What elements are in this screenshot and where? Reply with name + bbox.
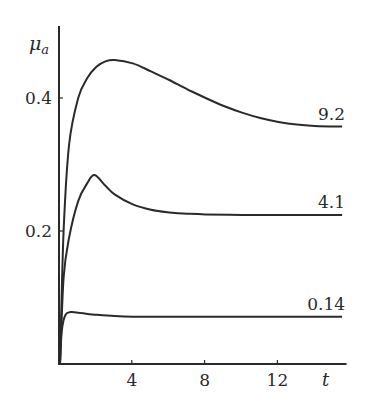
y-tick-label: 0.2 (25, 221, 52, 241)
x-tick-label: 12 (267, 370, 289, 390)
labels: 48120.20.4μat9.24.10.14 (25, 32, 345, 390)
x-tick-label: 8 (199, 370, 210, 390)
y-tick-label: 0.4 (25, 88, 52, 108)
x-axis-label: t (322, 369, 330, 390)
x-tick-label: 4 (126, 370, 137, 390)
curve-0-14 (60, 312, 342, 364)
curve-label: 9.2 (318, 104, 345, 124)
curve-label: 4.1 (318, 192, 345, 212)
curve-4-1 (60, 175, 342, 364)
line-chart-svg: 48120.20.4μat9.24.10.14 (0, 0, 378, 411)
curves (60, 60, 342, 364)
curve-9-2 (60, 60, 342, 364)
chart: 48120.20.4μat9.24.10.14 (0, 0, 378, 411)
axes (58, 26, 347, 365)
y-axis-label: μa (29, 32, 49, 57)
curve-label: 0.14 (307, 294, 345, 314)
